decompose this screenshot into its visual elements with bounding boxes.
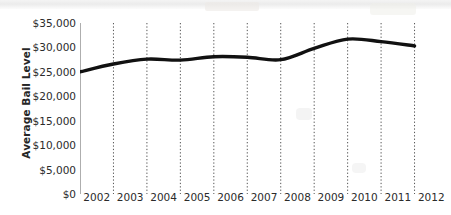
x-axis-tick-label: 2005 (184, 191, 211, 203)
x-axis-tick-labels: 2002200320042005200620072008200920102011… (0, 0, 451, 215)
x-axis-tick-label: 2010 (351, 191, 378, 203)
x-axis-tick-label: 2011 (384, 191, 411, 203)
x-axis-tick-label: 2003 (117, 191, 144, 203)
x-axis-tick-label: 2004 (150, 191, 177, 203)
x-axis-tick-label: 2012 (418, 191, 445, 203)
x-axis-tick-label: 2002 (83, 191, 110, 203)
x-axis-tick-label: 2009 (318, 191, 345, 203)
x-axis-tick-label: 2006 (217, 191, 244, 203)
x-axis-tick-label: 2007 (251, 191, 278, 203)
x-axis-tick-label: 2008 (284, 191, 311, 203)
bail-level-line-chart: Average Bail Level $35,000$30,000$25,000… (0, 0, 451, 215)
